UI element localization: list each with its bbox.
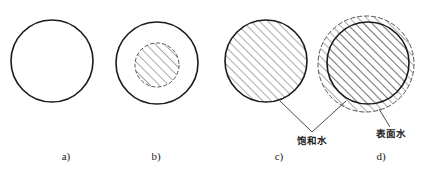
panel-c: c) — [225, 20, 307, 163]
wet-core-circle — [135, 43, 179, 87]
dry-particle-circle — [11, 20, 93, 102]
saturated-particle-circle-d — [327, 22, 409, 104]
caption-c: c) — [275, 150, 284, 163]
caption-a: a) — [62, 150, 71, 163]
surface-water-label: 表面水 — [375, 128, 406, 139]
saturated-water-label: 饱和水 — [297, 135, 327, 146]
annotation-saturated-water: 饱和水 — [280, 101, 346, 146]
caption-d: d) — [376, 150, 386, 163]
panel-b: b) — [116, 22, 198, 163]
leader-line-c — [280, 101, 312, 132]
leader-line-surface — [379, 109, 390, 127]
figure-canvas: a) b) c) d) 饱和水 表面水 — [0, 0, 428, 173]
annotation-surface-water: 表面水 — [375, 109, 406, 139]
panel-d: d) — [318, 16, 414, 163]
particle-water-diagram: a) b) c) d) 饱和水 表面水 — [0, 0, 428, 173]
panel-a: a) — [11, 20, 93, 163]
caption-b: b) — [151, 150, 161, 163]
saturated-particle-circle — [225, 20, 307, 102]
leader-line-d — [312, 101, 346, 132]
